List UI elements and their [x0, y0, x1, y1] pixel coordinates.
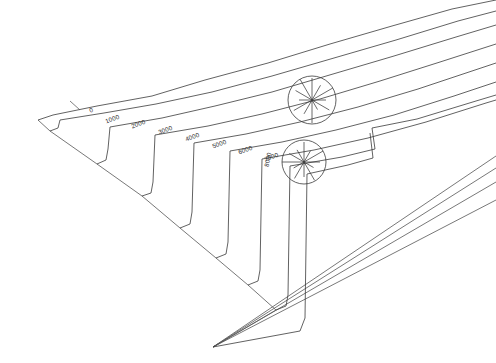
contour-3000-label: 3000 [157, 124, 173, 136]
contour-1000-label: 1000 [104, 113, 120, 125]
ridge-to-apex-d [213, 200, 496, 347]
contour-4000-label: 4000 [184, 131, 200, 143]
contour-figure: 010002000300040005000600070008000 [0, 0, 496, 363]
contour-2000-label: 2000 [130, 118, 146, 130]
ridge-to-apex-b [213, 168, 496, 347]
contour-label-group: 010002000300040005000600070008000 [88, 106, 279, 168]
diagram-canvas: 010002000300040005000600070008000 [0, 0, 496, 363]
ridge-to-apex-a [213, 156, 496, 347]
contour-6000-label: 6000 [237, 144, 253, 156]
contour-0 [38, 0, 496, 120]
leader-line-group [70, 101, 80, 110]
contour-7000 [276, 95, 496, 310]
contour-3000 [142, 44, 496, 196]
contour-group [38, 0, 496, 347]
rose-upper [288, 76, 336, 124]
contour-8000-label: 8000 [263, 151, 273, 167]
leader-zero [70, 101, 80, 110]
rose-lower [282, 140, 326, 184]
ridge-to-apex-c [213, 182, 496, 347]
contour-5000 [216, 82, 496, 258]
